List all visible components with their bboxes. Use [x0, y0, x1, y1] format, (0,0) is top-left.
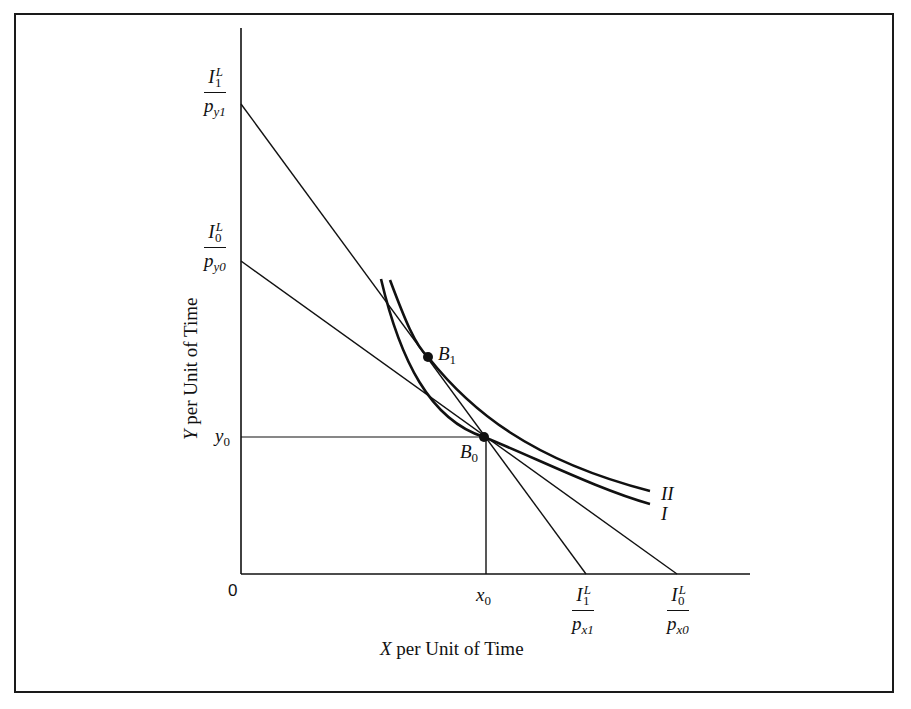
- numerator-sub: 0: [215, 230, 222, 245]
- y-axis-rest: per Unit of Time: [180, 297, 201, 429]
- denominator-sub: x0: [677, 622, 689, 637]
- numerator-sub: 1: [583, 593, 590, 608]
- numerator-var: I: [208, 66, 214, 87]
- numerator-sub: 0: [678, 593, 685, 608]
- indifference-curve-I: [381, 279, 650, 504]
- B1-sub: 1: [450, 352, 457, 367]
- y0-tick-label: y0: [215, 426, 230, 448]
- point-B0-label: B0: [460, 442, 478, 464]
- denominator-var: p: [572, 613, 582, 634]
- origin-label: 0: [228, 582, 237, 599]
- B0-sub: 0: [472, 450, 479, 465]
- x-axis-rest: per Unit of Time: [392, 638, 524, 659]
- denominator-sub: y0: [214, 259, 226, 274]
- x0-sub: 0: [484, 593, 491, 608]
- y-axis-var: Y: [180, 429, 201, 440]
- denominator-var: p: [667, 613, 677, 634]
- denominator-sub: x1: [582, 622, 594, 637]
- point-B1-marker: [423, 352, 433, 362]
- numerator-var: I: [576, 584, 582, 605]
- curve-II-label: II: [661, 484, 674, 503]
- x-intercept-budget0-label: IL0 px0: [667, 583, 689, 636]
- y0-sub: 0: [223, 434, 230, 449]
- denominator-var: p: [204, 95, 214, 116]
- B0-var: B: [460, 441, 472, 462]
- y-axis-title: Y per Unit of Time: [180, 297, 202, 440]
- budget-line-0: [241, 261, 677, 574]
- x-axis-var: X: [380, 638, 392, 659]
- denominator-sub: y1: [214, 104, 226, 119]
- numerator-sub: 1: [215, 75, 222, 90]
- point-B1-label: B1: [438, 344, 456, 366]
- B1-var: B: [438, 343, 450, 364]
- x-axis-title: X per Unit of Time: [380, 638, 524, 660]
- y-intercept-budget0-label: IL0 py0: [204, 220, 226, 273]
- x-intercept-budget1-label: IL1 px1: [572, 583, 594, 636]
- curve-I-label: I: [661, 504, 667, 523]
- numerator-var: I: [208, 221, 214, 242]
- denominator-var: p: [204, 250, 214, 271]
- numerator-var: I: [671, 584, 677, 605]
- indifference-curve-II: [390, 280, 650, 491]
- point-B0-marker: [479, 432, 489, 442]
- x0-tick-label: x0: [476, 585, 491, 607]
- y-intercept-budget1-label: IL1 py1: [204, 65, 226, 118]
